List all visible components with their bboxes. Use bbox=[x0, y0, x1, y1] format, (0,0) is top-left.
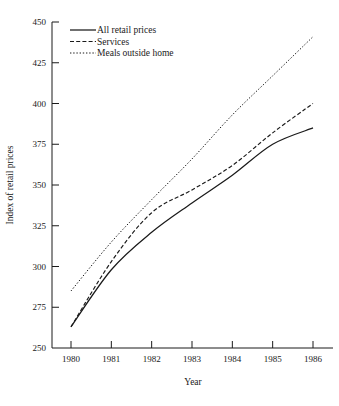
x-tick-label: 1980 bbox=[62, 354, 81, 364]
series-line bbox=[71, 104, 313, 327]
y-tick-label: 375 bbox=[33, 139, 47, 149]
y-tick-label: 400 bbox=[33, 99, 47, 109]
x-tick-label: 1983 bbox=[183, 354, 202, 364]
x-axis-tick-labels: 1980198119821983198419851986 bbox=[62, 354, 323, 364]
x-tick-label: 1986 bbox=[304, 354, 323, 364]
y-axis-ticks bbox=[52, 22, 59, 307]
y-axis-tick-labels: 250275300325350375400425450 bbox=[33, 17, 47, 353]
y-tick-label: 350 bbox=[33, 180, 47, 190]
x-tick-label: 1984 bbox=[223, 354, 242, 364]
y-axis-title: Index of retail prices bbox=[5, 145, 15, 224]
legend-label: Meals outside home bbox=[97, 48, 174, 58]
chart-legend: All retail pricesServicesMeals outside h… bbox=[70, 25, 174, 58]
x-axis-ticks bbox=[71, 341, 313, 348]
chart-canvas: 250275300325350375400425450 198019811982… bbox=[0, 0, 339, 406]
y-tick-label: 300 bbox=[33, 262, 47, 272]
x-tick-label: 1982 bbox=[143, 354, 161, 364]
y-tick-label: 425 bbox=[33, 58, 47, 68]
legend-label: Services bbox=[97, 37, 129, 47]
y-tick-label: 275 bbox=[33, 302, 47, 312]
x-axis-title: Year bbox=[184, 377, 202, 387]
x-tick-label: 1985 bbox=[264, 354, 283, 364]
x-tick-label: 1981 bbox=[102, 354, 120, 364]
y-tick-label: 325 bbox=[33, 221, 47, 231]
series-line bbox=[71, 37, 313, 291]
y-tick-label: 250 bbox=[33, 343, 47, 353]
retail-price-index-chart: 250275300325350375400425450 198019811982… bbox=[0, 0, 339, 406]
y-tick-label: 450 bbox=[33, 17, 47, 27]
series-line bbox=[71, 128, 313, 327]
legend-label: All retail prices bbox=[97, 25, 156, 35]
data-series-group bbox=[71, 37, 313, 327]
